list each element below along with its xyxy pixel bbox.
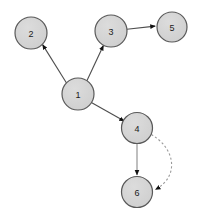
node-label-3: 3 [108, 27, 113, 37]
node-label-6: 6 [134, 188, 139, 198]
edge-3-to-5 [127, 26, 155, 29]
graph-canvas: 1 2 3 4 5 6 [0, 0, 201, 223]
nodes-layer: 1 2 3 4 5 6 [15, 12, 187, 208]
graph-node-2[interactable]: 2 [15, 17, 47, 49]
node-label-2: 2 [28, 29, 33, 39]
edge-1-to-2 [43, 45, 67, 83]
edge-1-to-3 [87, 46, 104, 81]
edge-1-to-4 [92, 103, 124, 121]
graph-node-4[interactable]: 4 [122, 113, 153, 144]
graph-node-6[interactable]: 6 [122, 177, 153, 208]
graph-node-3[interactable]: 3 [95, 15, 127, 47]
edges-layer [43, 26, 172, 189]
graph-node-5[interactable]: 5 [157, 12, 187, 42]
edge-4-to-6-dashed [151, 135, 171, 190]
node-label-1: 1 [75, 90, 80, 100]
node-label-5: 5 [169, 23, 174, 33]
graph-diagram: 1 2 3 4 5 6 [0, 0, 201, 223]
graph-node-1[interactable]: 1 [62, 78, 94, 110]
node-label-4: 4 [134, 124, 139, 134]
